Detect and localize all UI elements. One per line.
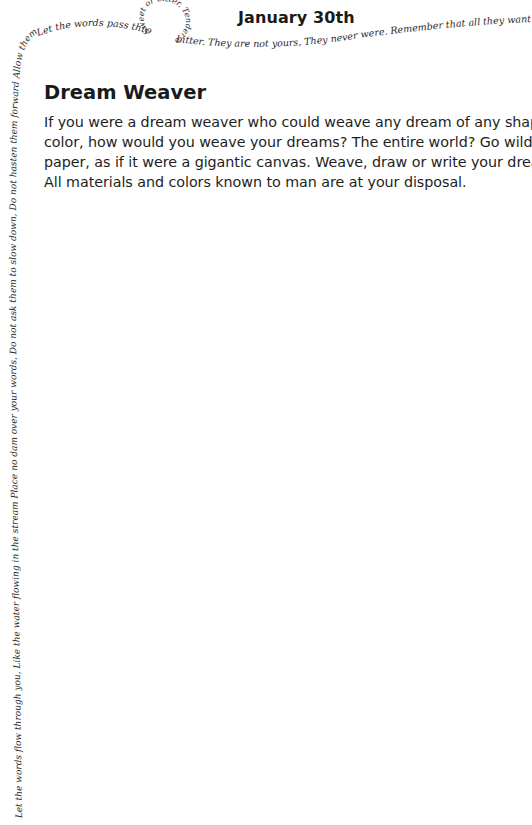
prompt-title: Dream Weaver [44, 80, 526, 106]
prompt-body-line: All materials and colors known to man ar… [44, 172, 526, 192]
prompt-body-line: If you were a dream weaver who could wea… [44, 112, 526, 132]
prompt-body: If you were a dream weaver who could wea… [44, 112, 526, 192]
border-text-spiral: Sweet or bitter, Tender or harsh, perhap… [0, 0, 193, 46]
prompt-body-line: paper, as if it were a gigantic canvas. … [44, 152, 526, 172]
blank-drawing-area [44, 200, 524, 815]
prompt-body-line: color, how would you weave your dreams? … [44, 132, 526, 152]
page-date: January 30th [238, 8, 355, 27]
border-text-left: Let the words flow through you, Like the… [0, 0, 39, 819]
border-text-top-left: Let the words pass through you, Peaceful… [0, 0, 153, 38]
prompt-section: Dream Weaver If you were a dream weaver … [44, 80, 526, 192]
